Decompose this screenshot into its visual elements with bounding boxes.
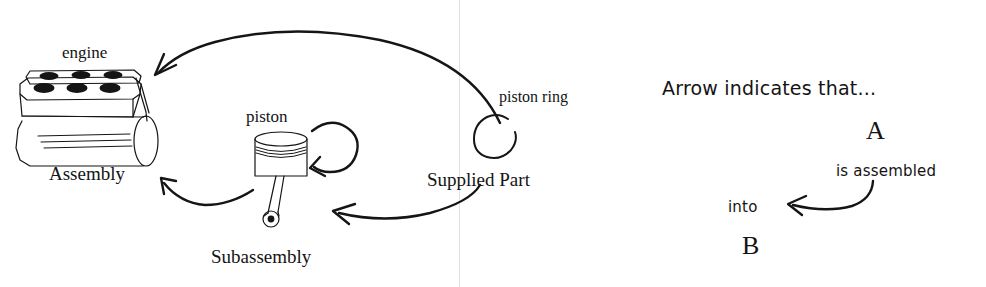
legend-relation-text: is assembled xyxy=(836,164,936,179)
arrow-piston-to-engine xyxy=(161,178,253,205)
legend-preposition-text: into xyxy=(728,200,758,215)
label-supplied-part: Supplied Part xyxy=(427,170,530,189)
label-assembly: Assembly xyxy=(49,164,125,183)
label-piston: piston xyxy=(246,108,288,125)
diagram-canvas: engine Assembly piston Subassembly pisto… xyxy=(0,0,986,287)
diagram-artwork-layer xyxy=(0,0,986,287)
engine-block-icon xyxy=(16,70,158,166)
legend-title: Arrow indicates that... xyxy=(662,79,876,98)
label-piston-ring: piston ring xyxy=(499,89,568,105)
piston-ring-icon xyxy=(474,115,516,158)
legend-arrow xyxy=(788,181,873,215)
legend-target-b: B xyxy=(742,233,759,259)
legend-source-a: A xyxy=(866,118,885,144)
piston-icon xyxy=(255,132,307,227)
label-engine: engine xyxy=(62,44,107,61)
label-subassembly: Subassembly xyxy=(211,247,311,266)
arrow-loop-onto-piston xyxy=(310,123,358,176)
arrow-ring-to-piston-bottom xyxy=(333,185,480,224)
arrow-ring-to-engine xyxy=(155,31,500,123)
